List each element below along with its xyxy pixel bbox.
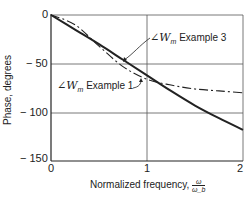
annotation-text: Example 3 bbox=[176, 32, 226, 43]
arrowhead-example-1 bbox=[139, 78, 143, 82]
plot-area bbox=[0, 0, 251, 200]
y-tick-minus-50: − 50 bbox=[26, 57, 48, 69]
x-axis-fraction: ω ω_b bbox=[192, 178, 205, 193]
annotation-example-1: ∠Wm Example 1 bbox=[57, 79, 133, 93]
x-tick-0: 0 bbox=[48, 162, 54, 174]
annotation-arrow-example-3 bbox=[124, 38, 150, 60]
angle-symbol: ∠W bbox=[57, 79, 78, 92]
y-tick-0: 0 bbox=[42, 8, 48, 20]
x-axis-label-text: Normalized frequency, bbox=[90, 179, 189, 190]
x-tick-1: 1 bbox=[144, 162, 150, 174]
fraction-numerator: ω bbox=[192, 178, 205, 186]
x-axis-label: Normalized frequency, ω ω_b bbox=[90, 178, 205, 193]
angle-symbol: ∠W bbox=[150, 31, 171, 44]
y-axis-label: Phase, degrees bbox=[2, 55, 13, 125]
y-tick-minus-150: − 150 bbox=[20, 152, 48, 164]
annotation-text: Example 1 bbox=[83, 80, 133, 91]
x-tick-2: 2 bbox=[237, 162, 243, 174]
y-tick-minus-100: − 100 bbox=[20, 106, 48, 118]
phase-chart: 0 − 50 − 100 − 150 0 1 2 Phase, degrees … bbox=[0, 0, 251, 200]
annotation-example-3: ∠Wm Example 3 bbox=[150, 31, 226, 45]
fraction-denominator: ω_b bbox=[192, 186, 205, 193]
